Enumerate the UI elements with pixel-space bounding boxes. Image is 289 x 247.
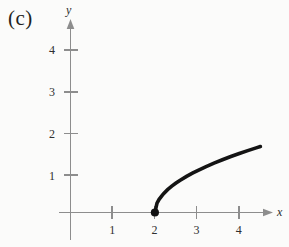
- x-tick-label: 2: [151, 223, 157, 237]
- axes-group: [59, 19, 273, 240]
- y-tick-label: 3: [49, 85, 55, 99]
- figure-panel-c: (c) y x 1 2 3 4: [0, 0, 289, 247]
- graph-canvas: y x 1 2 3 4 1 2 3 4: [0, 0, 289, 247]
- x-axis-ticks: 1 2 3 4: [109, 206, 242, 237]
- data-curve-sqrt: [155, 147, 261, 213]
- x-tick-label: 4: [236, 223, 242, 237]
- y-tick-label: 2: [49, 127, 55, 141]
- y-axis-arrow-icon: [67, 19, 75, 29]
- x-axis-label: x: [276, 205, 283, 219]
- x-tick-label: 1: [109, 223, 115, 237]
- closed-endpoint-dot: [151, 208, 159, 216]
- y-axis-ticks: 1 2 3 4: [49, 43, 78, 182]
- y-tick-label: 1: [49, 169, 55, 183]
- x-tick-label: 3: [194, 223, 200, 237]
- y-axis-label: y: [65, 3, 72, 17]
- y-tick-label: 4: [49, 43, 55, 57]
- x-axis-arrow-icon: [263, 209, 273, 217]
